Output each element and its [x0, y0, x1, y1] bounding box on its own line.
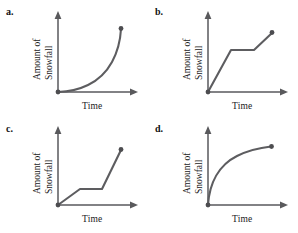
y-axis-label: Amount of Snowfall	[32, 152, 54, 194]
origin-dot	[206, 203, 211, 208]
x-axis-arrow-icon	[130, 89, 138, 96]
x-axis-label: Time	[232, 101, 253, 111]
y-axis-label-line1: Amount of	[32, 152, 42, 194]
y-axis-arrow-icon	[55, 126, 62, 134]
y-axis-label: Amount of Snowfall	[182, 38, 204, 80]
x-axis-label: Time	[82, 101, 103, 111]
curve-concave-down	[208, 147, 271, 206]
y-axis-arrow-icon	[55, 11, 62, 19]
y-axis-label-line2: Snowfall	[44, 159, 54, 194]
y-axis-label-line2: Snowfall	[44, 45, 54, 80]
y-axis-label-line2: Snowfall	[194, 159, 204, 194]
panel-a: a. Amount of Snowfall Time	[0, 0, 149, 116]
curve-endpoint-dot	[270, 30, 275, 35]
origin-dot	[206, 90, 211, 95]
curve-gentle-plateau-steep	[58, 150, 121, 205]
y-axis-label: Amount of Snowfall	[182, 152, 204, 194]
panel-d-graph: Amount of Snowfall Time	[149, 117, 298, 233]
panel-a-graph: Amount of Snowfall Time	[0, 0, 149, 116]
y-axis-label-line1: Amount of	[32, 38, 42, 80]
origin-dot	[56, 203, 61, 208]
y-axis-label-line1: Amount of	[182, 152, 192, 194]
origin-dot	[56, 90, 61, 95]
y-axis-label-line1: Amount of	[182, 38, 192, 80]
x-axis-arrow-icon	[280, 89, 288, 96]
curve-endpoint-dot	[119, 26, 124, 31]
y-axis-arrow-icon	[205, 126, 212, 134]
curve-rise-plateau-rise	[208, 33, 272, 92]
panel-b-graph: Amount of Snowfall Time	[149, 0, 298, 116]
panel-b: b. Amount of Snowfall Time	[149, 0, 298, 116]
y-axis-label: Amount of Snowfall	[32, 38, 54, 80]
x-axis-arrow-icon	[130, 202, 138, 209]
curve-endpoint-dot	[119, 147, 124, 152]
x-axis-label: Time	[82, 214, 103, 224]
y-axis-label-line2: Snowfall	[194, 45, 204, 80]
snowfall-graphs-figure: a. Amount of Snowfall Time b.	[0, 0, 298, 233]
x-axis-label: Time	[232, 214, 253, 224]
curve-concave-up	[58, 29, 121, 92]
panel-d: d. Amount of Snowfall Time	[149, 117, 298, 233]
panel-c-graph: Amount of Snowfall Time	[0, 117, 149, 233]
x-axis-arrow-icon	[280, 202, 288, 209]
panel-c: c. Amount of Snowfall Time	[0, 117, 149, 233]
y-axis-arrow-icon	[205, 11, 212, 19]
curve-endpoint-dot	[269, 144, 274, 149]
